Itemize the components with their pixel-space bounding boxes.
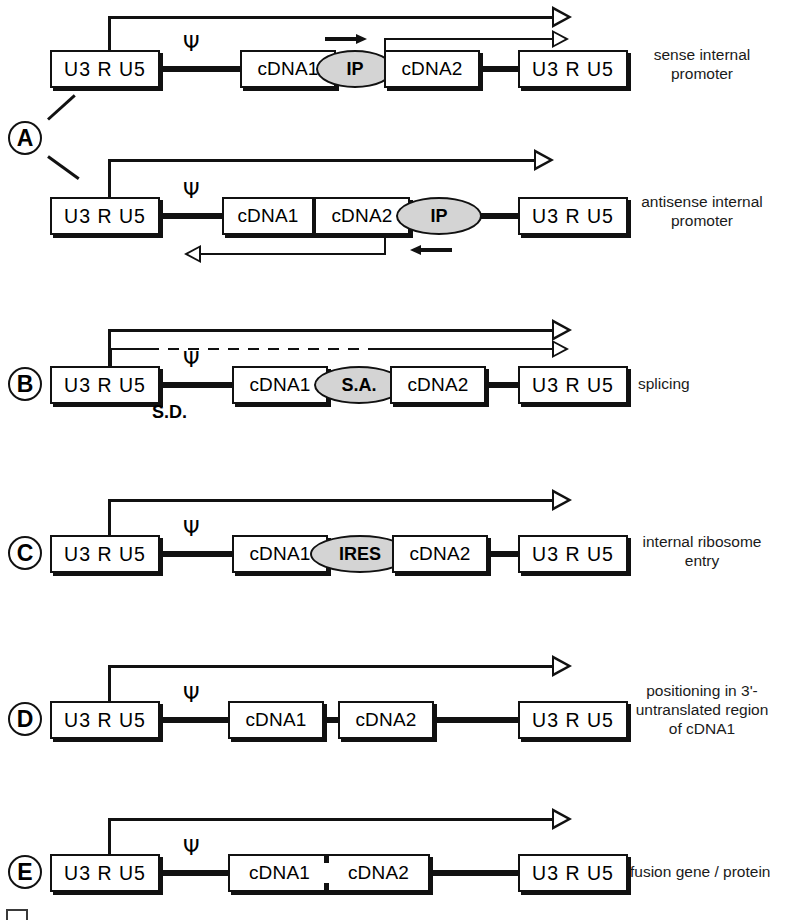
panel-a-leader-upper: [47, 94, 76, 120]
psi-packaging-signal: Ψ: [183, 181, 200, 202]
panel-letter-e: E: [8, 855, 42, 889]
caption-panel-a-antisense: antisense internal promoter: [618, 192, 786, 230]
psi-packaging-signal: Ψ: [183, 685, 200, 706]
caption-line: sense internal: [618, 45, 786, 64]
arrowhead-right: [552, 319, 572, 341]
transcript-shaft: [200, 253, 386, 255]
ltr-5prime-box: U3 R U5: [50, 701, 160, 739]
arrowhead-right: [552, 808, 572, 830]
ltr-3prime-box: U3 R U5: [518, 197, 628, 235]
caption-line: antisense internal: [618, 192, 786, 211]
caption-line: internal ribosome: [618, 532, 786, 551]
fusion-part-cdna2: cDNA2: [329, 856, 428, 890]
caption-line: entry: [618, 551, 786, 570]
cdna1-box: cDNA1: [222, 197, 314, 235]
cdna2-box: cDNA2: [338, 701, 434, 739]
transcript-shaft: [108, 329, 554, 332]
cdna2-box: cDNA2: [390, 366, 486, 404]
bottom-caption-fragment: [6, 909, 28, 920]
transcript-shaft: [384, 38, 556, 40]
caption-line: promoter: [618, 211, 786, 230]
psi-packaging-signal: Ψ: [183, 838, 200, 859]
internal-promoter-oval: IP: [396, 197, 482, 235]
transcript-riser: [108, 159, 111, 201]
transcript-shaft: [108, 159, 536, 162]
psi-packaging-signal: Ψ: [183, 519, 200, 540]
caption-panel-e: fusion gene / protein: [630, 862, 792, 881]
cdna2-box: cDNA2: [384, 50, 480, 88]
transcript-exon-segment: [376, 348, 556, 350]
caption-panel-d: positioning in 3'- untranslated region o…: [618, 681, 786, 738]
arrowhead-right: [552, 340, 569, 358]
arrow-tip: [410, 245, 421, 255]
arrow-tip: [356, 34, 367, 44]
panel-letter-b: B: [8, 367, 42, 401]
fusion-junction-tick-top: [324, 854, 329, 863]
arrowhead-right: [534, 149, 554, 171]
caption-line: promoter: [618, 64, 786, 83]
caption-panel-c: internal ribosome entry: [618, 532, 786, 570]
retroviral-vector-figure: U3 R U5 Ψ cDNA1 IP cDNA2 U3 R U5 sense i…: [0, 0, 792, 920]
arrowhead-left: [184, 245, 201, 263]
transcript-shaft: [108, 665, 554, 668]
internal-promoter-oval: IP: [316, 50, 394, 88]
arrow-shaft: [325, 37, 357, 41]
caption-panel-b: splicing: [638, 374, 792, 393]
transcript-shaft: [108, 818, 554, 821]
arrow-shaft: [420, 248, 452, 252]
arrowhead-right: [552, 655, 572, 677]
cdna2-box: cDNA2: [392, 535, 488, 573]
ltr-3prime-box: U3 R U5: [518, 854, 628, 892]
arrowhead-right: [552, 489, 572, 511]
caption-line: of cDNA1: [618, 719, 786, 738]
promoter-direction-arrow-antisense: [410, 245, 452, 255]
panel-letter-d: D: [8, 702, 42, 736]
arrowhead-right: [552, 6, 572, 28]
panel-a-leader-lower: [47, 155, 80, 180]
fusion-part-cdna1: cDNA1: [230, 856, 329, 890]
transcript-riser: [108, 16, 111, 54]
cdna1-box: cDNA1: [228, 701, 324, 739]
promoter-direction-arrow-sense: [325, 34, 367, 44]
panel-letter-c: C: [8, 536, 42, 570]
caption-panel-a-sense: sense internal promoter: [618, 45, 786, 83]
arrowhead-right: [552, 30, 569, 48]
psi-packaging-signal: Ψ: [183, 350, 200, 371]
ltr-5prime-box: U3 R U5: [50, 50, 160, 88]
ltr-3prime-box: U3 R U5: [518, 50, 628, 88]
caption-line: untranslated region: [618, 700, 786, 719]
panel-letter-a: A: [8, 121, 42, 155]
transcript-shaft: [108, 499, 554, 502]
fusion-gene-box: cDNA1 cDNA2: [228, 854, 430, 892]
fusion-junction-tick-bottom: [324, 883, 329, 892]
ltr-3prime-box: U3 R U5: [518, 535, 628, 573]
ltr-5prime-box: U3 R U5: [50, 366, 160, 404]
caption-line: positioning in 3'-: [618, 681, 786, 700]
ltr-5prime-box: U3 R U5: [50, 854, 160, 892]
ltr-3prime-box: U3 R U5: [518, 701, 628, 739]
splice-donor-label: S.D.: [152, 402, 187, 423]
ltr-3prime-box: U3 R U5: [518, 366, 628, 404]
ltr-5prime-box: U3 R U5: [50, 535, 160, 573]
ltr-5prime-box: U3 R U5: [50, 197, 160, 235]
transcript-exon-segment: [110, 348, 148, 350]
transcript-shaft: [108, 16, 554, 19]
psi-packaging-signal: Ψ: [183, 34, 200, 55]
